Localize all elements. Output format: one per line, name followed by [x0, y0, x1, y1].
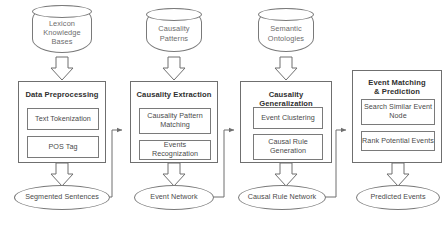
- substep-label-line2: Matching: [147, 121, 203, 130]
- substep-label: Search Similar Event Node: [364, 103, 432, 121]
- source-database-semantic-ontologies: Semantic Ontologies: [258, 8, 314, 52]
- substep-label: Events Recognization: [140, 141, 210, 159]
- source-label-line1: Lexicon: [43, 19, 80, 28]
- source-database-label: Lexicon Knowledge Bases: [43, 12, 80, 47]
- substep-label: Event Clustering: [261, 114, 315, 123]
- pipeline-diagram: Lexicon Knowledge Bases Causality Patter…: [0, 0, 447, 240]
- output-label: Event Network: [150, 193, 197, 202]
- substep-causal-rule-generation: Causal Rule Generation: [253, 134, 323, 160]
- output-label: Predicted Events: [370, 193, 425, 202]
- substep-label-line2: Node: [364, 112, 432, 121]
- stage-causality-generalization: Causality Generalization Event Clusterin…: [240, 81, 332, 163]
- source-label-line1: Causality: [158, 24, 189, 33]
- source-label-line3: Bases: [43, 37, 80, 46]
- block-arrow-stage1-to-output1: [51, 163, 73, 186]
- substep-event-clustering: Event Clustering: [253, 107, 323, 129]
- block-arrow-stage3-to-output3: [275, 163, 297, 186]
- output-label: Segmented Sentences: [25, 193, 99, 202]
- stage-title-line1: Event Matching: [353, 78, 441, 87]
- stage-title-data-preprocessing: Data Preprocessing: [19, 90, 105, 99]
- substep-label: POS Tag: [49, 143, 78, 152]
- substep-events-recognization: Events Recognization: [139, 140, 211, 160]
- stage-title-event-matching-prediction: Event Matching & Prediction: [353, 78, 441, 97]
- substep-label-line1: Text Tokenization: [35, 115, 91, 124]
- substep-label-line1: Event Clustering: [261, 114, 315, 123]
- stage-title-causality-extraction: Causality Extraction: [131, 90, 217, 99]
- substep-label: Rank Potential Events: [362, 137, 434, 146]
- substep-text-tokenization: Text Tokenization: [27, 108, 99, 130]
- substep-label-line2: Generation: [268, 147, 308, 156]
- substep-rank-potential-events: Rank Potential Events: [361, 131, 435, 151]
- source-database-label: Semantic Ontologies: [268, 17, 304, 42]
- substep-label-line1: POS Tag: [49, 143, 78, 152]
- stage-data-preprocessing: Data Preprocessing Text Tokenization POS…: [18, 81, 106, 163]
- source-label-line2: Patterns: [158, 34, 189, 43]
- stage-title-line1: Causality Generalization: [241, 90, 331, 109]
- source-database-lexicon-knowledge-bases: Lexicon Knowledge Bases: [32, 5, 92, 53]
- block-arrow-source3-to-stage3: [275, 57, 297, 80]
- substep-label: Text Tokenization: [35, 115, 91, 124]
- block-arrow-stage4-to-output4: [387, 163, 409, 186]
- block-arrow-source1-to-stage1: [51, 57, 73, 80]
- stage-title-line1: Data Preprocessing: [19, 90, 105, 99]
- stage-causality-extraction: Causality Extraction Causality Pattern M…: [130, 81, 218, 163]
- stage-title-causality-generalization: Causality Generalization: [241, 90, 331, 109]
- source-label-line2: Knowledge: [43, 28, 80, 37]
- source-database-causality-patterns: Causality Patterns: [146, 8, 202, 52]
- source-label-line2: Ontologies: [268, 34, 304, 43]
- output-causal-rule-network: Causal Rule Network: [238, 185, 326, 210]
- stage-event-matching-and-prediction: Event Matching & Prediction Search Simil…: [352, 70, 442, 163]
- output-label: Causal Rule Network: [248, 193, 316, 202]
- source-database-label: Causality Patterns: [158, 17, 189, 42]
- block-arrow-source2-to-stage2: [163, 57, 185, 80]
- source-label-line1: Semantic: [268, 24, 304, 33]
- stage-title-line2: & Prediction: [353, 87, 441, 96]
- substep-label: Causal Rule Generation: [268, 138, 308, 156]
- substep-label-line1: Rank Potential Events: [362, 137, 434, 146]
- substep-pos-tag: POS Tag: [27, 136, 99, 158]
- substep-causality-pattern-matching: Causality Pattern Matching: [139, 108, 211, 134]
- output-predicted-events: Predicted Events: [356, 185, 440, 210]
- stage-title-line1: Causality Extraction: [131, 90, 217, 99]
- substep-label: Causality Pattern Matching: [147, 112, 203, 130]
- substep-label-line1: Events Recognization: [140, 141, 210, 159]
- substep-search-similar-event-node: Search Similar Event Node: [361, 99, 435, 125]
- output-segmented-sentences: Segmented Sentences: [14, 185, 110, 210]
- block-arrow-stage2-to-output2: [163, 163, 185, 186]
- output-event-network: Event Network: [134, 185, 214, 210]
